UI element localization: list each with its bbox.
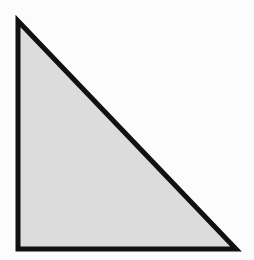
right-triangle-shape (18, 21, 236, 249)
triangle-figure (0, 0, 254, 260)
diagram-canvas (0, 0, 254, 260)
